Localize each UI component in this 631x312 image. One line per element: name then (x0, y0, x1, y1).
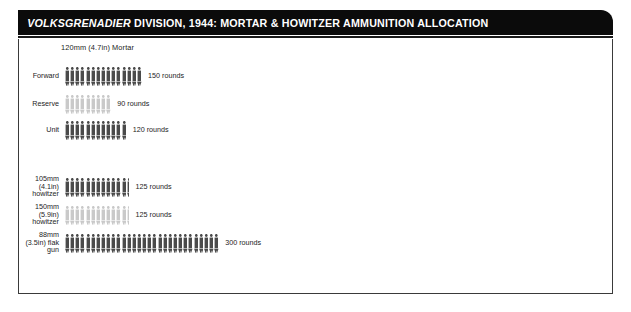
ammunition-figure-icon (91, 234, 96, 253)
page-title: VOLKSGRENADIER DIVISION, 1944: MORTAR & … (18, 17, 488, 29)
ammunition-figure-icon (122, 234, 127, 253)
ammunition-figure-icon (91, 67, 96, 86)
ammunition-figure-icon (70, 67, 75, 86)
pictogram-chart: 120mm (4.7in) MortarForward150 roundsRes… (19, 39, 612, 293)
ammunition-figure-icon (75, 121, 80, 140)
ammunition-figure-icon (132, 67, 137, 86)
ammunition-figure-icon (137, 234, 142, 253)
ammunition-figure-icon (122, 206, 127, 225)
ammunition-figure-icon (65, 95, 70, 114)
page-title-emphasis: VOLKSGRENADIER (27, 17, 131, 29)
ammunition-figure-icon (86, 206, 91, 225)
ammunition-figure-icon (91, 95, 96, 114)
ammunition-figure-icon (194, 234, 199, 253)
ammunition-figure-icon (106, 121, 111, 140)
ammunition-figure-icon (101, 121, 106, 140)
ammunition-figure-icon (96, 234, 101, 253)
row-value-label: 150 rounds (142, 71, 184, 80)
ammunition-figure-icon (75, 95, 80, 114)
row-icon-bar (65, 176, 130, 197)
ammunition-figure-icon (122, 178, 127, 197)
header-divider (18, 36, 613, 38)
ammunition-figure-icon (101, 234, 106, 253)
row-label: 105mm (4.1in) howitzer (19, 175, 65, 198)
chart-row: 150mm (5.9in) howitzer125 rounds (19, 203, 612, 226)
ammunition-figure-icon (111, 206, 116, 225)
ammunition-figure-icon (116, 234, 121, 253)
ammunition-figure-icon (75, 178, 80, 197)
ammunition-figure-icon (96, 178, 101, 197)
ammunition-figure-icon (91, 178, 96, 197)
ammunition-figure-icon (106, 95, 111, 114)
ammunition-figure-icon (70, 121, 75, 140)
ammunition-figure-icon (65, 206, 70, 225)
ammunition-figure-icon (132, 234, 137, 253)
ammunition-figure-icon (188, 234, 193, 253)
ammunition-figure-icon (86, 67, 91, 86)
row-icon-bar (65, 119, 127, 140)
ammunition-figure-icon (199, 234, 204, 253)
ammunition-figure-icon (183, 234, 188, 253)
ammunition-figure-icon (106, 67, 111, 86)
ammunition-figure-icon (152, 234, 157, 253)
ammunition-figure-icon (106, 206, 111, 225)
ammunition-figure-icon (80, 67, 85, 86)
ammunition-figure-icon (116, 178, 121, 197)
ammunition-figure-icon (80, 178, 85, 197)
ammunition-figure-icon (214, 234, 219, 253)
row-value-label: 90 rounds (111, 99, 149, 108)
infographic-page: VOLKSGRENADIER DIVISION, 1944: MORTAR & … (0, 0, 631, 312)
row-icon-bar (65, 65, 142, 86)
ammunition-figure-icon (127, 234, 132, 253)
ammunition-figure-icon (80, 206, 85, 225)
ammunition-figure-icon (65, 67, 70, 86)
ammunition-figure-icon (70, 206, 75, 225)
ammunition-figure-icon (204, 234, 209, 253)
chart-row: Forward150 rounds (19, 65, 612, 86)
ammunition-figure-icon (116, 67, 121, 86)
ammunition-figure-icon (70, 95, 75, 114)
header-bar: VOLKSGRENADIER DIVISION, 1944: MORTAR & … (18, 10, 613, 35)
ammunition-figure-icon (111, 234, 116, 253)
row-value-label: 125 rounds (130, 182, 172, 191)
ammunition-figure-icon (86, 95, 91, 114)
ammunition-figure-icon (209, 234, 214, 253)
ammunition-figure-icon (96, 67, 101, 86)
ammunition-figure-icon (75, 67, 80, 86)
ammunition-figure-icon (70, 178, 75, 197)
ammunition-figure-icon (91, 121, 96, 140)
ammunition-figure-icon (80, 121, 85, 140)
ammunition-figure-icon (111, 178, 116, 197)
ammunition-figure-icon (142, 234, 147, 253)
ammunition-figure-icon (101, 178, 106, 197)
ammunition-figure-icon (173, 234, 178, 253)
ammunition-figure-icon (96, 206, 101, 225)
ammunition-figure-icon (127, 67, 132, 86)
row-value-label: 120 rounds (127, 125, 169, 134)
ammunition-figure-icon (122, 67, 127, 86)
ammunition-figure-icon (122, 121, 127, 140)
ammunition-figure-icon (106, 234, 111, 253)
ammunition-figure-icon (80, 234, 85, 253)
ammunition-figure-icon (86, 178, 91, 197)
ammunition-figure-icon (70, 234, 75, 253)
ammunition-figure-icon (91, 206, 96, 225)
ammunition-figure-icon (147, 234, 152, 253)
ammunition-figure-icon (101, 95, 106, 114)
ammunition-figure-icon (111, 121, 116, 140)
row-value-label: 300 rounds (219, 238, 261, 247)
chart-row: 105mm (4.1in) howitzer125 rounds (19, 175, 612, 198)
ammunition-figure-icon (101, 206, 106, 225)
ammunition-figure-icon (116, 121, 121, 140)
ammunition-figure-icon (96, 121, 101, 140)
row-label: 150mm (5.9in) howitzer (19, 203, 65, 226)
row-icon-bar (65, 204, 130, 225)
ammunition-figure-icon (65, 234, 70, 253)
row-icon-bar (65, 93, 111, 114)
ammunition-figure-icon (111, 67, 116, 86)
ammunition-figure-icon (178, 234, 183, 253)
chart-row: Unit120 rounds (19, 119, 612, 140)
row-label: Reserve (19, 100, 65, 108)
ammunition-figure-icon (168, 234, 173, 253)
row-icon-bar (65, 232, 219, 253)
